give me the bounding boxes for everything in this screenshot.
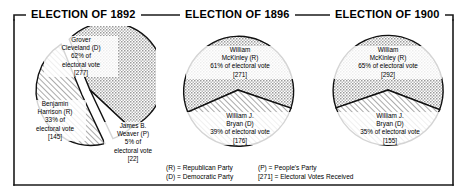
slice-label-votes: [176] [186, 137, 294, 145]
slice-label-bryan-1900: William J. Bryan (D) 35% of electoral vo… [336, 112, 444, 145]
slice-label-line: 65% of electoral vote [334, 62, 442, 70]
slice-label-bryan-1896: William J. Bryan (D) 39% of electoral vo… [186, 112, 294, 145]
slice-label-votes: [271] [186, 71, 294, 79]
slice-label-line: Weaver (P) [104, 130, 162, 138]
slice-label-line: Harrison (R) [24, 108, 86, 116]
slice-label-line: 39% of electoral vote [186, 128, 294, 136]
panel-title-1896: ELECTION OF 1896 [180, 8, 295, 21]
slice-label-line: 35% of electoral vote [336, 128, 444, 136]
legend-key-peoples: (P) = People's Party [258, 163, 378, 172]
slice-label-votes: [155] [336, 137, 444, 145]
slice-label-line: 61% of electoral vote [186, 62, 294, 70]
panel-title-1892: ELECTION OF 1892 [26, 8, 141, 21]
legend-row: (D) = Democratic Party [271] = Electoral… [166, 172, 378, 181]
slice-label-cleveland-1892: Grover Cleveland (D) 62% of electoral vo… [44, 36, 118, 77]
slice-label-weaver-1892: James B. Weaver (P) 5% of electoral vote… [104, 122, 162, 163]
slice-label-votes: [277] [44, 69, 118, 77]
slice-label-line: Bryan (D) [336, 120, 444, 128]
slice-label-line: William J. [336, 112, 444, 120]
slice-label-line: James B. [104, 122, 162, 130]
election-pie-charts-figure: ELECTION OF 1892 ELECTION OF 1896 ELECTI… [0, 0, 467, 196]
slice-label-mckinley-1896: William McKinley (R) 61% of electoral vo… [186, 46, 294, 79]
slice-label-line: Cleveland (D) [44, 44, 118, 52]
legend-key-democratic: (D) = Democratic Party [166, 172, 258, 181]
slice-label-line: 5% of [104, 138, 162, 146]
slice-label-harrison-1892: Benjamin Harrison (R) 33% of electoral v… [24, 100, 86, 141]
slice-label-line: electoral vote [24, 125, 86, 133]
panel-title-1900: ELECTION OF 1900 [330, 8, 445, 21]
slice-label-line: 33% of [24, 116, 86, 124]
slice-label-mckinley-1900: William McKinley (R) 65% of electoral vo… [334, 46, 442, 79]
slice-label-line: electoral vote [104, 147, 162, 155]
slice-label-line: William [334, 46, 442, 54]
legend-key-republican: (R) = Republican Party [166, 163, 258, 172]
slice-label-line: Grover [44, 36, 118, 44]
slice-label-votes: [22] [104, 155, 162, 163]
chart-legend: (R) = Republican Party (P) = People's Pa… [166, 163, 378, 182]
slice-label-votes: [145] [24, 133, 86, 141]
slice-label-line: 62% of [44, 52, 118, 60]
slice-label-line: electoral vote [44, 61, 118, 69]
legend-row: (R) = Republican Party (P) = People's Pa… [166, 163, 378, 172]
slice-label-line: McKinley (R) [334, 54, 442, 62]
slice-label-votes: [292] [334, 71, 442, 79]
slice-label-line: Benjamin [24, 100, 86, 108]
slice-label-line: Bryan (D) [186, 120, 294, 128]
slice-label-line: William [186, 46, 294, 54]
slice-label-line: McKinley (R) [186, 54, 294, 62]
slice-label-line: William J. [186, 112, 294, 120]
legend-key-electoral-votes: [271] = Electoral Votes Received [258, 172, 378, 181]
